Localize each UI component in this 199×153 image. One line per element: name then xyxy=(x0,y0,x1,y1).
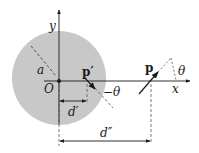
y-axis-label: y xyxy=(48,19,56,33)
radius-label: a xyxy=(37,63,44,77)
inner-angle-label: −θ xyxy=(103,85,121,99)
origin-point xyxy=(57,79,61,83)
x-axis-label: x xyxy=(172,82,179,96)
distance-outer-label: d″ xyxy=(100,126,113,140)
outer-dipole-arrow xyxy=(139,72,158,94)
outer-dipole-label: p xyxy=(145,61,153,75)
dipole-image-diagram: y x O a p′ p −θ θ d′ d″ xyxy=(0,0,199,153)
distance-inner-label: d′ xyxy=(68,105,79,119)
outer-dipole-extension xyxy=(158,58,171,72)
inner-dipole-label: p′ xyxy=(82,65,94,79)
origin-label: O xyxy=(44,82,54,96)
outer-angle-reference xyxy=(171,58,176,80)
outer-angle-label: θ xyxy=(178,64,186,78)
